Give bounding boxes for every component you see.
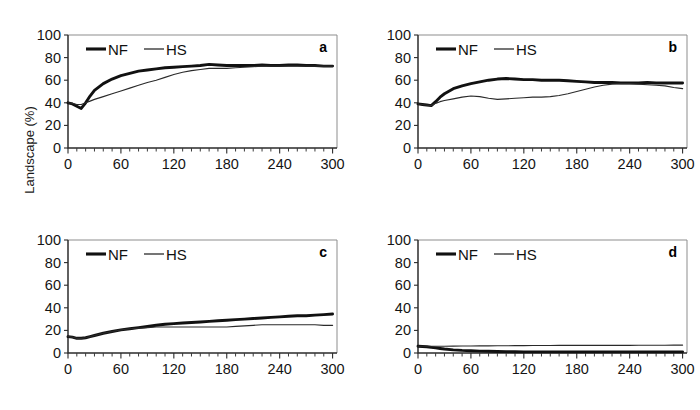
panel-letter-a: a — [319, 39, 327, 55]
x-tick-label: 180 — [565, 156, 589, 172]
y-tick-label: 80 — [45, 50, 61, 66]
x-tick-label: 60 — [113, 156, 129, 172]
x-tick-label: 0 — [64, 361, 72, 377]
y-tick-label: 20 — [395, 117, 411, 133]
x-tick-label: 300 — [670, 156, 694, 172]
legend-label-nf: NF — [108, 246, 128, 263]
y-tick-label: 40 — [395, 95, 411, 111]
y-tick-label: 40 — [45, 300, 61, 316]
x-tick-label: 0 — [64, 156, 72, 172]
y-tick-label: 100 — [387, 27, 411, 43]
legend-label-hs: HS — [166, 246, 187, 263]
y-tick-label: 0 — [53, 140, 61, 156]
x-tick-label: 60 — [113, 361, 129, 377]
x-tick-label: 300 — [320, 156, 344, 172]
figure-background — [0, 0, 700, 410]
y-tick-label: 60 — [395, 72, 411, 88]
y-tick-label: 0 — [53, 345, 61, 361]
legend-label-nf: NF — [458, 41, 478, 58]
x-tick-label: 120 — [512, 156, 536, 172]
panel-letter-b: b — [668, 39, 677, 55]
panel-letter-d: d — [668, 244, 677, 260]
panel-letter-c: c — [319, 244, 327, 260]
x-tick-label: 0 — [414, 156, 422, 172]
x-tick-label: 60 — [463, 156, 479, 172]
y-tick-label: 100 — [387, 232, 411, 248]
y-tick-label: 100 — [37, 27, 61, 43]
four-panel-line-chart-figure: Landscape (%) 02040608010006012018024030… — [0, 0, 700, 410]
x-tick-label: 240 — [618, 156, 642, 172]
x-tick-label: 300 — [320, 361, 344, 377]
y-tick-label: 60 — [45, 72, 61, 88]
x-tick-label: 180 — [215, 156, 239, 172]
y-tick-label: 100 — [37, 232, 61, 248]
x-tick-label: 240 — [268, 156, 292, 172]
y-tick-label: 20 — [45, 322, 61, 338]
x-tick-label: 60 — [463, 361, 479, 377]
y-tick-label: 60 — [45, 277, 61, 293]
y-tick-label: 20 — [45, 117, 61, 133]
x-tick-label: 0 — [414, 361, 422, 377]
legend-label-nf: NF — [108, 41, 128, 58]
x-tick-label: 180 — [215, 361, 239, 377]
x-tick-label: 120 — [162, 156, 186, 172]
x-tick-label: 300 — [670, 361, 694, 377]
y-tick-label: 80 — [45, 255, 61, 271]
x-tick-label: 240 — [618, 361, 642, 377]
legend-label-nf: NF — [458, 246, 478, 263]
legend-label-hs: HS — [516, 41, 537, 58]
y-tick-label: 40 — [395, 300, 411, 316]
y-tick-label: 80 — [395, 50, 411, 66]
y-tick-label: 20 — [395, 322, 411, 338]
legend-label-hs: HS — [166, 41, 187, 58]
x-tick-label: 120 — [512, 361, 536, 377]
y-axis-label: Landscape (%) — [22, 106, 37, 193]
x-tick-label: 180 — [565, 361, 589, 377]
legend-label-hs: HS — [516, 246, 537, 263]
x-tick-label: 240 — [268, 361, 292, 377]
x-tick-label: 120 — [162, 361, 186, 377]
y-tick-label: 60 — [395, 277, 411, 293]
y-tick-label: 40 — [45, 95, 61, 111]
y-tick-label: 0 — [403, 345, 411, 361]
y-tick-label: 0 — [403, 140, 411, 156]
y-tick-label: 80 — [395, 255, 411, 271]
